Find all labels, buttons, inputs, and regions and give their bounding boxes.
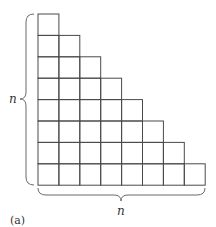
grid-cell (59, 142, 80, 163)
left-brace (20, 14, 34, 185)
grid-cell (80, 142, 101, 163)
figure-caption: (a) (10, 214, 25, 227)
grid-cell (101, 164, 122, 185)
grid-cell (80, 57, 101, 78)
staircase-grid (38, 14, 205, 185)
grid-cell (59, 78, 80, 99)
grid-cell (59, 121, 80, 142)
grid-cell (38, 100, 59, 121)
grid-cell (59, 164, 80, 185)
grid-cell (80, 100, 101, 121)
grid-cell (101, 78, 122, 99)
grid-cell (38, 121, 59, 142)
grid-cell (101, 100, 122, 121)
grid-cell (38, 142, 59, 163)
grid-cell (122, 100, 143, 121)
grid-cell (59, 100, 80, 121)
grid-cell (38, 57, 59, 78)
staircase-diagram: n n (a) (0, 0, 216, 227)
grid-cell (38, 78, 59, 99)
grid-cell (59, 57, 80, 78)
left-brace-label: n (9, 92, 17, 106)
grid-cell (163, 164, 184, 185)
grid-cell (80, 164, 101, 185)
grid-cell (101, 121, 122, 142)
grid-cell (163, 142, 184, 163)
bottom-brace-label: n (117, 204, 125, 218)
grid-cell (38, 14, 59, 35)
grid-cell (80, 121, 101, 142)
grid-cell (59, 35, 80, 56)
bottom-brace (38, 188, 205, 201)
grid-cell (38, 164, 59, 185)
grid-cell (143, 142, 164, 163)
grid-cell (143, 121, 164, 142)
grid-cell (122, 121, 143, 142)
grid-cell (143, 164, 164, 185)
grid-cell (122, 164, 143, 185)
grid-cell (122, 142, 143, 163)
grid-cell (80, 78, 101, 99)
grid-cell (38, 35, 59, 56)
grid-cell (101, 142, 122, 163)
grid-cell (184, 164, 205, 185)
